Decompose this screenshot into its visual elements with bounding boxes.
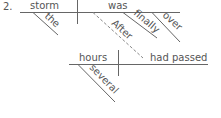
- verb-modifier-over: over: [161, 9, 186, 33]
- connector-after: After: [110, 17, 136, 42]
- main-subject: storm: [30, 0, 59, 11]
- item-number: 2.: [3, 1, 13, 12]
- main-verb: was: [108, 0, 128, 11]
- subordinate-verb: had passed: [150, 52, 207, 63]
- subject-modifier-the: the: [43, 10, 63, 29]
- sentence-diagram: 2. storm was the After finally over hour…: [0, 0, 221, 118]
- subordinate-subject: hours: [79, 52, 107, 63]
